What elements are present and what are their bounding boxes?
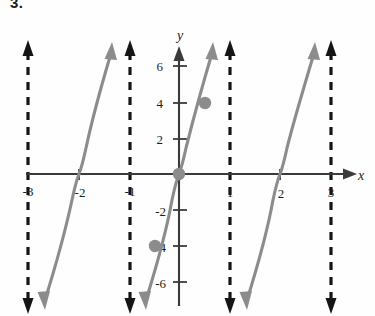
curve-arrow-up-center [206, 42, 219, 60]
arrow-down-icon [326, 298, 337, 314]
curve-arrow-down-right [240, 291, 253, 310]
arrow-down-icon [125, 298, 136, 314]
x-tick-label-1: 1 [227, 185, 234, 200]
y-axis-label: y [175, 28, 184, 43]
arrow-down-icon [23, 298, 34, 314]
arrow-up-icon [125, 40, 136, 56]
curve-arrow-up-left [105, 42, 118, 60]
y-tick-label-2: 2 [157, 132, 164, 147]
point-upper [199, 97, 211, 109]
x-axis-label: x [357, 168, 365, 183]
x-tick-label-2: 2 [278, 186, 285, 201]
curve-arrow-down-left [38, 291, 51, 310]
curve-arrow-up-right [308, 42, 321, 60]
arrow-down-icon [225, 298, 236, 314]
arrow-up-icon [326, 40, 337, 56]
figure-page: 3. [0, 0, 375, 316]
y-tick-label-neg6: -6 [155, 276, 166, 291]
y-axis-arrow-icon [174, 46, 185, 61]
arrow-up-icon [23, 40, 34, 56]
asymptote-x-3 [326, 40, 337, 314]
x-tick-label-neg1: -1 [125, 184, 136, 199]
axes-group [26, 46, 357, 306]
y-tick-label-neg2: -2 [155, 204, 166, 219]
tangent-function-graph: x y -3 -2 -1 1 2 3 6 4 2 [0, 0, 375, 316]
arrow-up-icon [225, 40, 236, 56]
x-tick-label-neg3: -3 [23, 184, 34, 199]
x-axis-arrow-icon [343, 169, 357, 180]
point-origin [173, 168, 185, 180]
asymptote-x-neg3 [23, 40, 34, 314]
y-tick-label-6: 6 [157, 59, 164, 74]
y-tick-label-4: 4 [157, 96, 164, 111]
x-tick-label-3: 3 [328, 185, 335, 200]
point-lower [149, 240, 161, 252]
curve-arrow-down-center [139, 291, 152, 310]
asymptote-x-neg1 [125, 40, 136, 314]
asymptote-x-1 [225, 40, 236, 314]
